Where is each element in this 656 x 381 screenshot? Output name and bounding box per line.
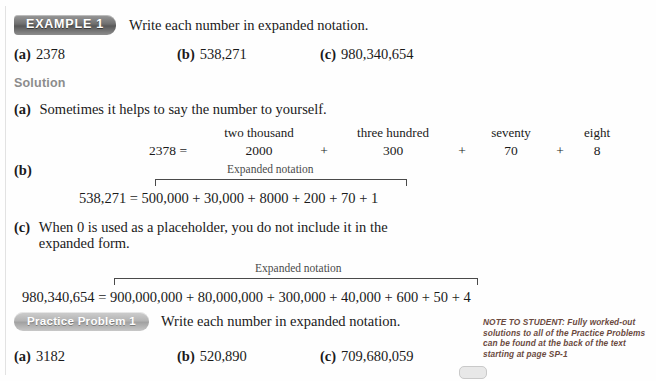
expanded-notation-label-c: Expanded notation (255, 262, 342, 274)
example-problem-c-value: 980,340,654 (341, 46, 414, 62)
expanded-notation-brace-c (114, 278, 478, 285)
solution-part-b-equation: 538,271 = 500,000 + 30,000 + 8000 + 200 … (79, 190, 378, 207)
practice-problem-b-value: 520,890 (200, 348, 247, 364)
solution-part-c-equation: 980,340,654 = 900,000,000 + 80,000,000 +… (22, 289, 471, 306)
example-header: EXAMPLE 1 Write each number in expanded … (14, 15, 368, 35)
example-problem-c-label: (c) (320, 46, 336, 62)
practice-problem-c-value: 709,680,059 (341, 348, 414, 364)
example-problem-b-label: (b) (177, 46, 195, 62)
textbook-page: EXAMPLE 1 Write each number in expanded … (0, 0, 656, 381)
term-tens: 70 (479, 142, 543, 160)
example-badge: EXAMPLE 1 (14, 15, 116, 35)
example-problem-a: (a)2378 (14, 46, 65, 63)
word-hundreds: three hundred (341, 124, 445, 142)
word-gap-2 (445, 124, 479, 142)
word-form-row: two thousand three hundred seventy eight (125, 124, 617, 142)
practice-problem-c-label: (c) (320, 348, 336, 364)
word-ones: eight (577, 124, 617, 142)
practice-problem-b: (b)520,890 (177, 348, 247, 365)
word-thousands: two thousand (211, 124, 307, 142)
example-problem-a-value: 2378 (36, 46, 65, 62)
solution-part-c-sentence: When 0 is used as a placeholder, you do … (39, 219, 439, 251)
expanded-notation-brace-b (155, 179, 407, 186)
operator-3: + (543, 142, 577, 160)
note-to-student-lead: NOTE TO STUDENT: (483, 317, 565, 327)
solution-part-c-label: (c) (14, 219, 30, 235)
note-to-student: NOTE TO STUDENT: Fully worked-out soluti… (483, 317, 651, 359)
word-row-spacer (125, 124, 211, 142)
solution-part-b-label-wrap: (b) (14, 162, 37, 178)
solution-part-c-text: (c) When 0 is used as a placeholder, you… (14, 219, 454, 251)
solution-part-a-label: (a) (14, 101, 31, 117)
practice-problem-b-label: (b) (177, 348, 195, 364)
practice-problem-a: (a)3182 (14, 348, 65, 365)
practice-problem-header: Practice Problem 1 Write each number in … (14, 312, 400, 331)
expanded-notation-table-a: two thousand three hundred seventy eight… (125, 124, 617, 160)
equation-lead-a: 2378 = (125, 142, 211, 160)
term-ones: 8 (577, 142, 617, 160)
word-gap-3 (543, 124, 577, 142)
practice-problem-a-value: 3182 (36, 348, 65, 364)
page-marker-icon (459, 366, 487, 379)
solution-part-b-label: (b) (14, 162, 32, 178)
example-problem-a-label: (a) (14, 46, 31, 62)
term-hundreds: 300 (341, 142, 445, 160)
practice-problem-a-label: (a) (14, 348, 31, 364)
solution-heading: Solution (14, 76, 66, 90)
practice-problem-badge: Practice Problem 1 (14, 312, 149, 331)
expanded-notation-label-b: Expanded notation (227, 163, 314, 175)
left-margin-rule (5, 6, 6, 375)
example-problem-c: (c)980,340,654 (320, 46, 414, 63)
word-tens: seventy (479, 124, 543, 142)
operator-2: + (445, 142, 479, 160)
example-problem-b-value: 538,271 (200, 46, 247, 62)
term-thousands: 2000 (211, 142, 307, 160)
example-problem-b: (b)538,271 (177, 46, 247, 63)
practice-problem-instruction: Write each number in expanded notation. (161, 313, 400, 330)
practice-problem-c: (c)709,680,059 (320, 348, 414, 365)
operator-1: + (307, 142, 341, 160)
solution-part-a-sentence: Sometimes it helps to say the number to … (40, 101, 327, 117)
solution-part-a-text: (a) Sometimes it helps to say the number… (14, 101, 327, 117)
word-gap-1 (307, 124, 341, 142)
numeric-form-row: 2378 = 2000 + 300 + 70 + 8 (125, 142, 617, 160)
example-instruction: Write each number in expanded notation. (129, 17, 368, 34)
